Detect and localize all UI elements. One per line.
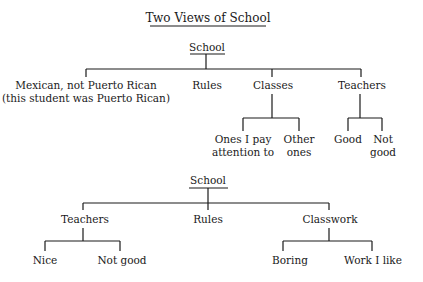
node-ones-i-pay-attention-line2: attention to bbox=[212, 146, 274, 158]
node-other-ones: Other bbox=[284, 133, 316, 145]
node-mexican-note: (this student was Puerto Rican) bbox=[2, 92, 170, 104]
node-not-good-2: Not good bbox=[97, 254, 146, 266]
tree-view-1: School Mexican, not Puerto Rican (this s… bbox=[2, 41, 396, 158]
tree-view-2: School Teachers Nice Not good Rules Clas… bbox=[33, 174, 402, 266]
root-node-school-2: School bbox=[190, 174, 226, 186]
node-good: Good bbox=[334, 133, 362, 145]
node-ones-i-pay-attention: Ones I pay bbox=[215, 133, 272, 145]
node-classwork: Classwork bbox=[302, 213, 358, 225]
node-rules-2: Rules bbox=[193, 213, 223, 225]
two-views-diagram: Two Views of School School Mexican, not … bbox=[0, 0, 423, 282]
node-other-ones-line2: ones bbox=[287, 146, 312, 158]
node-teachers-2: Teachers bbox=[61, 213, 109, 225]
node-nice: Nice bbox=[33, 254, 58, 266]
node-teachers: Teachers bbox=[338, 79, 386, 91]
node-mexican: Mexican, not Puerto Rican bbox=[15, 79, 157, 91]
node-work-i-like: Work I like bbox=[344, 254, 402, 266]
node-not-good: Not bbox=[373, 133, 394, 145]
node-rules: Rules bbox=[192, 79, 222, 91]
root-node-school: School bbox=[189, 41, 225, 53]
diagram-title: Two Views of School bbox=[146, 11, 271, 25]
node-boring: Boring bbox=[272, 254, 308, 266]
node-classes: Classes bbox=[253, 79, 293, 91]
node-not-good-line2: good bbox=[370, 146, 396, 158]
